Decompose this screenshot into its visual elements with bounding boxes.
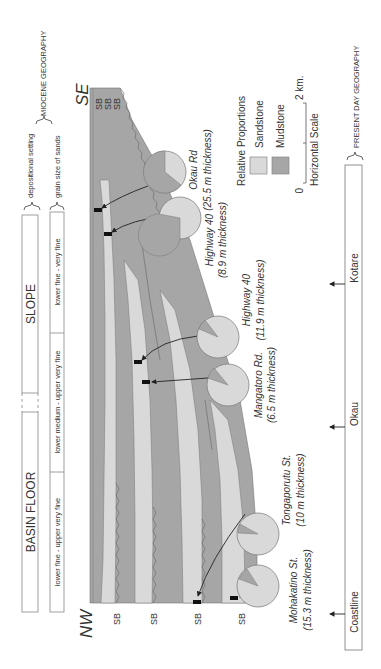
sb-label: SB: [193, 613, 203, 625]
mudstone-swatch: [272, 157, 289, 174]
horizontal-scale-bar: [303, 103, 306, 183]
pie-okau-rd: [144, 151, 186, 193]
legend: Relative Proportions Sandstone Mudstone …: [236, 76, 320, 194]
scale-caption: Horizontal Scale: [309, 113, 320, 186]
okau-rd-thickness: (25.5 m thickness): [202, 129, 213, 211]
sb-label: SB: [112, 613, 122, 625]
okau-rd-name: Okau Rd: [188, 150, 199, 190]
highway-40-a-thickness: (8.9 m thickness): [217, 202, 228, 278]
present-day-geography: Coastline Okau Kotare PRESENT DAY GEOGRA…: [330, 45, 363, 650]
highway-40-a-name: Highway 40: [204, 213, 215, 266]
se-label: SE: [73, 83, 92, 106]
location-okau: Okau: [349, 402, 360, 426]
legend-title: Relative Proportions: [236, 96, 247, 186]
miocene-geography-label: MIOCENE GEOGRAPHY: [39, 31, 48, 116]
nw-label: NW: [77, 608, 96, 638]
mangatoro-rd-thickness: (6.5 m thickness): [266, 347, 277, 423]
slope-label: SLOPE: [24, 284, 38, 324]
sb-label: SB: [149, 613, 159, 625]
sb-labels-nw: SB SB SB SB: [112, 613, 247, 625]
legend-sandstone-label: Sandstone: [254, 100, 265, 148]
present-day-label: PRESENT DAY GEOGRAPHY: [352, 45, 361, 148]
location-kotare: Kotare: [349, 253, 360, 283]
highway-40-b-name: Highway 40: [241, 273, 252, 326]
stratigraphic-cross-section-figure: BASIN FLOOR SLOPE lower fine - upper ver…: [0, 0, 381, 669]
sandstone-swatch: [250, 157, 267, 174]
mangatoro-rd-name: Mangatoro Rd.: [253, 352, 264, 418]
basin-floor-label: BASIN FLOOR: [24, 471, 38, 552]
scale-start-label: 0: [294, 188, 305, 194]
pie-mohakatino-st: [237, 565, 279, 607]
scale-end-label: 2 km.: [294, 76, 305, 100]
tongaporutu-st-thickness: (10 m thickness): [295, 453, 306, 526]
tongaporutu-st-name: Tongaporutu St.: [281, 455, 292, 526]
present-day-bracket: [347, 152, 363, 160]
highway-40-b-thickness: (11.9 m thickness): [255, 260, 266, 341]
grain-size-row: lower fine - upper very fine lower mediu…: [50, 212, 64, 612]
pie-highway-40-b: [197, 316, 239, 358]
mohakatino-st-name: Mohakatino St.: [288, 557, 299, 624]
sb-labels-se: SB SB SB: [94, 98, 122, 110]
pie-mangatoro-rd: [207, 364, 249, 406]
location-coastline: Coastline: [349, 591, 360, 633]
sb-label: SB: [112, 98, 122, 110]
mohakatino-st-thickness: (15.3 m thickness): [302, 549, 313, 631]
grain-size-basin-floor: lower fine - upper very fine: [53, 498, 62, 586]
grain-size-upper-slope: lower fine - very fine: [53, 238, 62, 305]
depositional-setting-bracket-label: depositional setting: [26, 134, 35, 198]
sb-label: SB: [237, 613, 247, 625]
pie-tongaporutu-st: [237, 513, 279, 555]
grain-size-bracket-label: grain size of sands: [53, 135, 62, 198]
grain-size-lower-slope: lower medium - upper very fine: [53, 351, 62, 454]
legend-mudstone-label: Mudstone: [275, 104, 286, 148]
depositional-setting-row: BASIN FLOOR SLOPE: [22, 215, 38, 612]
